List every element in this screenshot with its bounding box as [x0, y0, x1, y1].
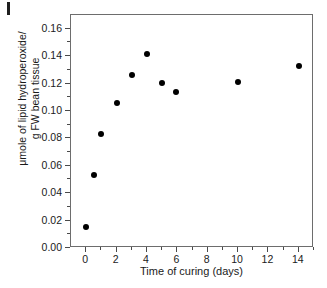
x-tick-mark	[85, 247, 86, 252]
x-minor-tick-mark	[192, 247, 193, 250]
x-tick-mark	[146, 247, 147, 252]
x-tick-mark	[237, 247, 238, 252]
y-minor-tick-mark	[67, 206, 70, 207]
y-minor-tick-mark	[67, 69, 70, 70]
y-tick-mark	[65, 192, 70, 193]
x-tick-label: 6	[173, 254, 179, 265]
x-tick-mark	[176, 247, 177, 252]
y-minor-tick-mark	[67, 233, 70, 234]
x-tick-mark	[207, 247, 208, 252]
y-tick-label: 0.06	[42, 160, 62, 170]
x-minor-tick-mark	[100, 247, 101, 250]
y-tick-mark	[65, 28, 70, 29]
data-point	[235, 79, 241, 85]
x-tick-label: 14	[292, 254, 304, 265]
y-tick-label: 0.02	[42, 215, 62, 225]
data-point	[159, 80, 165, 86]
plot-area	[70, 14, 313, 247]
y-tick-label: 0.12	[42, 78, 62, 88]
y-tick-label: 0.08	[42, 132, 62, 142]
y-minor-tick-mark	[67, 178, 70, 179]
x-minor-tick-mark	[131, 247, 132, 250]
x-tick-label: 8	[204, 254, 210, 265]
data-point	[296, 63, 302, 69]
y-minor-tick-mark	[67, 124, 70, 125]
x-tick-label: 12	[262, 254, 274, 265]
data-point	[129, 72, 135, 78]
x-tick-label: 4	[143, 254, 149, 265]
data-point	[83, 224, 89, 230]
y-axis-title-line: μmole of lipid hydroperoxide/	[16, 9, 29, 189]
x-tick-label: 0	[82, 254, 88, 265]
y-tick-mark	[65, 55, 70, 56]
y-tick-mark	[65, 137, 70, 138]
x-minor-tick-mark	[313, 247, 314, 250]
y-tick-label: 0.10	[42, 105, 62, 115]
y-tick-mark	[65, 83, 70, 84]
y-minor-tick-mark	[67, 96, 70, 97]
data-point	[173, 89, 179, 95]
y-tick-label: 0.16	[42, 23, 62, 33]
y-tick-mark	[65, 110, 70, 111]
y-axis-title: μmole of lipid hydroperoxide/g FW bean t…	[16, 9, 41, 189]
x-minor-tick-mark	[222, 247, 223, 250]
x-tick-mark	[267, 247, 268, 252]
x-minor-tick-mark	[161, 247, 162, 250]
data-point	[144, 51, 150, 57]
x-tick-label: 10	[231, 254, 243, 265]
data-point	[114, 100, 120, 106]
y-tick-mark	[65, 220, 70, 221]
figure: 0.000.020.040.060.080.100.120.140.16 024…	[0, 0, 327, 288]
data-point	[91, 172, 97, 178]
y-minor-tick-mark	[67, 41, 70, 42]
x-axis-title: Time of curing (days)	[70, 265, 313, 277]
y-axis-title-line: g FW bean tissue	[28, 9, 41, 189]
y-tick-label: 0.04	[42, 187, 62, 197]
x-minor-tick-mark	[283, 247, 284, 250]
y-tick-label: 0.00	[42, 242, 62, 252]
x-minor-tick-mark	[252, 247, 253, 250]
x-tick-label: 2	[113, 254, 119, 265]
y-tick-label: 0.14	[42, 50, 62, 60]
y-tick-mark	[65, 165, 70, 166]
x-tick-mark	[298, 247, 299, 252]
data-point	[98, 131, 104, 137]
y-minor-tick-mark	[67, 151, 70, 152]
x-tick-mark	[116, 247, 117, 252]
